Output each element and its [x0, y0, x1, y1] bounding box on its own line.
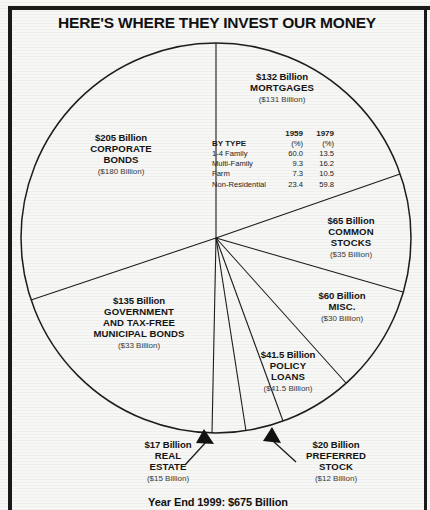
slice-label-policy-loans: $41.5 Billion POLICY LOANS ($41.5 Billio…	[234, 350, 342, 393]
table-row: 1-4 Family 60.0 13.5	[212, 148, 334, 158]
slice-name-2: LOANS	[234, 372, 342, 383]
by-type-row-label: Non-Residential	[212, 179, 272, 189]
slice-secondary: ($33 Billion)	[58, 341, 220, 350]
by-type-row-label: Farm	[212, 169, 272, 179]
by-type-row-label: 1-4 Family	[212, 148, 272, 158]
arrow-preferred-stock	[263, 427, 281, 443]
table-row: Farm 7.3 10.5	[212, 169, 334, 179]
table-row: Non-Residential 23.4 59.8	[212, 179, 334, 189]
by-type-unit-1979: (%)	[303, 138, 334, 148]
slice-secondary: ($180 Billion)	[60, 167, 182, 176]
by-type-row-1979: 16.2	[303, 159, 334, 169]
slice-name: MISC.	[288, 302, 396, 313]
by-type-row-1979: 13.5	[303, 148, 334, 158]
slice-divider-government-bonds-end	[31, 238, 216, 300]
by-type-row-label: Multi-Family	[212, 159, 272, 169]
by-type-col-1959: 1959	[272, 128, 303, 138]
by-type-caption-cell	[212, 128, 272, 138]
by-type-unit-1959: (%)	[272, 138, 303, 148]
slice-label-preferred-stock: $20 Billion PREFERRED STOCK ($12 Billion…	[281, 440, 391, 483]
by-type-col-1979: 1979	[303, 128, 334, 138]
slice-name-2: STOCK	[281, 462, 391, 473]
table-row: Multi-Family 9.3 16.2	[212, 159, 334, 169]
slice-secondary: ($41.5 Billion)	[234, 384, 342, 393]
slice-name-2: STOCKS	[296, 238, 406, 249]
by-type-table: 1959 1979 BY TYPE (%) (%) 1-4 Family 60.…	[212, 128, 334, 189]
chart-footer: Year End 1999: $675 Billion	[12, 496, 424, 508]
slice-secondary: ($35 Billion)	[296, 250, 406, 259]
slice-label-government-bonds: $135 Billion GOVERNMENT AND TAX-FREE MUN…	[58, 296, 220, 350]
slice-label-real-estate: $17 Billion REAL ESTATE ($15 Billion)	[120, 440, 216, 483]
slice-secondary: ($12 Billion)	[281, 474, 391, 483]
slice-secondary: ($30 Billion)	[288, 314, 396, 323]
slice-label-mortgages: $132 Billion MORTGAGES ($131 Billion)	[222, 72, 342, 104]
by-type-row-1979: 59.8	[303, 179, 334, 189]
by-type-row-1979: 10.5	[303, 169, 334, 179]
by-type-row-1959: 9.3	[272, 159, 303, 169]
slice-label-misc: $60 Billion MISC. ($30 Billion)	[288, 291, 396, 323]
chart-page: HERE'S WHERE THEY INVEST OUR MONEY $132 …	[0, 0, 430, 510]
slice-name-2: BONDS	[60, 155, 182, 166]
slice-secondary: ($15 Billion)	[120, 474, 216, 483]
slice-name: MORTGAGES	[222, 83, 342, 94]
slice-divider-policy-loans-end	[216, 238, 283, 421]
by-type-row-1959: 23.4	[272, 179, 303, 189]
by-type-caption: BY TYPE	[212, 138, 272, 148]
slice-label-corporate-bonds: $205 Billion CORPORATE BONDS ($180 Billi…	[60, 133, 182, 176]
slice-name-2: ESTATE	[120, 462, 216, 473]
by-type-row-1959: 60.0	[272, 148, 303, 158]
slice-name-3: MUNICIPAL BONDS	[58, 329, 220, 340]
slice-label-common-stocks: $65 Billion COMMON STOCKS ($35 Billion)	[296, 216, 406, 259]
slice-secondary: ($131 Billion)	[222, 95, 342, 104]
by-type-row-1959: 7.3	[272, 169, 303, 179]
